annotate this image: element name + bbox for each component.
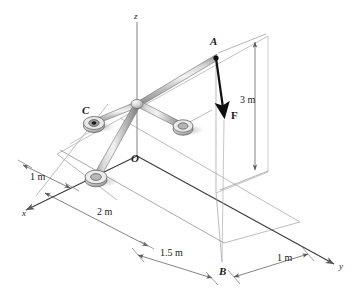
axis-label-y: y <box>339 262 343 271</box>
dimension-2m <box>45 193 154 249</box>
boom-segment-upper <box>135 54 217 109</box>
dimension-label-1m-right: 1 m <box>277 253 292 263</box>
dimension-label-3m: 3 m <box>240 95 255 105</box>
point-label-A: A <box>210 36 217 47</box>
force-label-f: F <box>231 110 238 121</box>
axis-label-z: z <box>134 12 138 21</box>
dimension-1m-right <box>228 247 314 284</box>
plane-line-b <box>120 118 300 222</box>
dimension-3m <box>218 34 268 190</box>
grid-line-far-z <box>57 36 268 154</box>
dimension-label-1m-left: 1 m <box>30 172 45 182</box>
axis-label-x: x <box>22 209 26 218</box>
support-joint-front <box>85 170 107 187</box>
projection-lines <box>70 36 268 262</box>
point-label-C: C <box>82 105 89 116</box>
point-label-B: B <box>219 266 226 277</box>
dim-line-1m-right <box>234 254 308 277</box>
ext-line-3m-bottom <box>220 171 268 190</box>
tick-1m-right-b <box>302 247 314 261</box>
support-joint-right <box>173 120 193 135</box>
drop-line-A-extended <box>216 193 222 262</box>
dimension-label-1p5m: 1.5 m <box>160 248 183 258</box>
dim-line-2m <box>45 193 148 246</box>
ground-trace-b <box>216 172 268 193</box>
dimension-1m-left <box>18 160 79 191</box>
tick-1m-right-a <box>228 270 240 284</box>
tick-1p5m-b <box>206 272 218 285</box>
junction-collar <box>131 99 143 108</box>
tick-1p5m-a <box>132 248 144 262</box>
point-label-O: O <box>131 153 139 164</box>
tick-1m-left-a <box>18 160 32 168</box>
x-axis-line <box>26 156 137 210</box>
force-vector-f <box>216 58 224 115</box>
dim-line-1p5m <box>138 255 212 278</box>
tick-2m-end <box>140 241 154 249</box>
force-line-of-action <box>222 120 224 262</box>
support-joint-c <box>84 117 105 133</box>
force-arrow-f <box>216 58 224 115</box>
dimension-label-2m: 2 m <box>97 207 112 217</box>
